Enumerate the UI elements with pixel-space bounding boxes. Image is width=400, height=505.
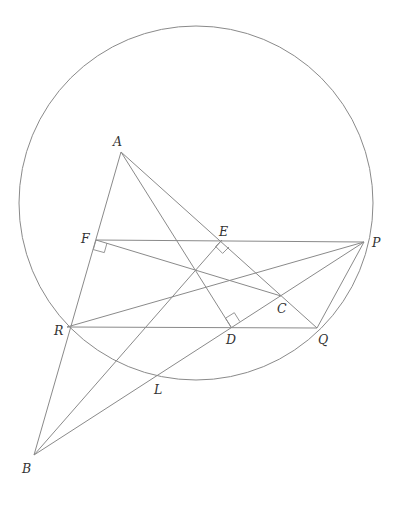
label-P: P (371, 235, 381, 250)
altitude-CF (96, 240, 281, 296)
line-AB (34, 152, 121, 455)
label-F: F (80, 231, 91, 246)
altitude-AD (121, 152, 231, 327)
geometry-diagram: A B C D E F P Q R L (0, 0, 400, 505)
right-angle-mark-F (93, 240, 107, 253)
label-D: D (225, 332, 236, 347)
line-PQ (317, 242, 364, 328)
line-FP (96, 240, 364, 242)
label-A: A (112, 134, 122, 149)
label-C: C (277, 301, 287, 316)
label-Q: Q (318, 332, 328, 347)
right-angle-mark-D (226, 313, 240, 327)
line-BP (34, 242, 364, 455)
label-L: L (153, 382, 162, 397)
label-R: R (53, 323, 63, 338)
point-labels: A B C D E F P Q R L (21, 134, 381, 476)
label-B: B (21, 461, 31, 476)
line-RP (67, 242, 364, 327)
line-RQ (67, 327, 317, 328)
label-E: E (218, 224, 228, 239)
altitude-BE (34, 240, 222, 455)
segments (34, 152, 364, 455)
